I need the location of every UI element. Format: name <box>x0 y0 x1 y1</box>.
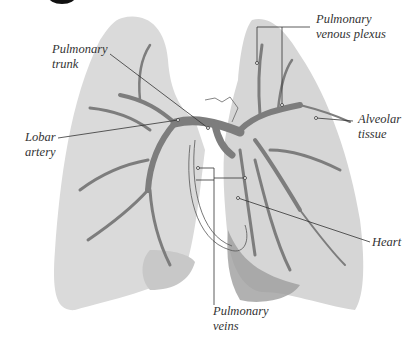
label-pulmonary-veins: Pulmonary veins <box>213 304 269 334</box>
lungs-diagram: Pulmonary trunk Pulmonary venous plexus … <box>0 0 415 343</box>
label-heart: Heart <box>372 235 401 250</box>
left-lung-lower-lobe <box>143 250 196 290</box>
label-alveolar-tissue: Alveolar tissue <box>358 112 401 142</box>
label-pulmonary-trunk: Pulmonary trunk <box>52 42 108 72</box>
label-lobar-artery: Lobar artery <box>25 130 56 160</box>
partial-shape-top <box>48 0 76 4</box>
label-pulmonary-venous-plexus: Pulmonary venous plexus <box>316 12 386 42</box>
